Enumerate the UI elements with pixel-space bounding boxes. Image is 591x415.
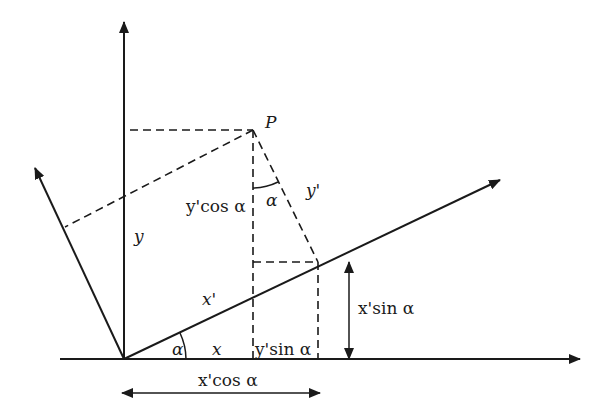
y-prime-axis	[35, 168, 124, 359]
x-prime-axis	[124, 180, 500, 359]
x-prime-label: x'	[202, 289, 216, 309]
alpha-origin-label: α	[172, 339, 184, 359]
y-prime-cos-label: y'cos α	[185, 196, 246, 216]
angle-arc-P	[253, 182, 278, 188]
y-label: y	[133, 226, 144, 246]
point-P-label: P	[264, 112, 277, 132]
y-prime-sin-label: y'sin α	[254, 339, 312, 359]
x-prime-sin-label: x'sin α	[358, 298, 415, 318]
alpha-P-label: α	[266, 190, 278, 210]
x-prime-cos-label: x'cos α	[198, 370, 258, 390]
rotation-diagram: P y x x' y' α α y'cos α y'sin α x'sin α …	[0, 0, 591, 415]
y-prime-label: y'	[305, 180, 320, 200]
x-label: x	[212, 339, 222, 359]
